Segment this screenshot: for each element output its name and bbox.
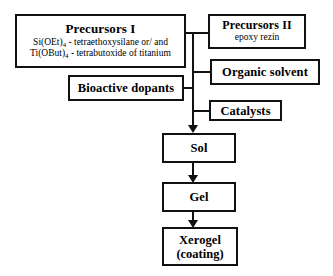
node-xerogel-subtitle: (coating)	[176, 247, 223, 261]
node-precursors-1-line-2: Ti(OBut)4 - tetrabutoxide of titanium	[30, 48, 171, 59]
node-organic-solvent-title: Organic solvent	[222, 65, 308, 79]
node-precursors-1-line-2-rest: - tetrabutoxide of titanium	[69, 48, 171, 58]
node-catalysts-title: Catalysts	[220, 104, 270, 118]
node-xerogel-title: Xerogel	[179, 233, 221, 247]
node-organic-solvent: Organic solvent	[210, 59, 320, 85]
formula-ti-obut: Ti(OBut)	[30, 48, 65, 58]
node-precursors-2-subtitle: epoxy rezin	[235, 32, 280, 43]
node-gel: Gel	[162, 182, 236, 212]
flowchart-canvas: Precursors I Si(OEt)4 - tetraethoxysilan…	[0, 0, 333, 276]
arrow-head-to-sol	[188, 125, 198, 133]
node-bioactive-dopants-title: Bioactive dopants	[78, 81, 175, 95]
node-bioactive-dopants: Bioactive dopants	[68, 75, 184, 101]
node-precursors-2: Precursors II epoxy rezin	[208, 14, 306, 49]
connector-trunk-organic-solvent	[192, 71, 212, 73]
node-catalysts: Catalysts	[209, 100, 282, 121]
node-precursors-1-title: Precursors I	[66, 22, 136, 37]
node-sol-title: Sol	[191, 141, 208, 155]
formula-si-oet: Si(OEt)	[33, 37, 63, 47]
node-precursors-1-line-1-rest: - tetraethoxysilane or/ and	[66, 37, 168, 47]
node-precursors-1-line-1: Si(OEt)4 - tetraethoxysilane or/ and	[33, 37, 168, 48]
node-precursors-1: Precursors I Si(OEt)4 - tetraethoxysilan…	[15, 14, 186, 68]
node-precursors-2-title: Precursors II	[222, 19, 291, 32]
node-xerogel: Xerogel (coating)	[162, 227, 238, 266]
connector-trunk-vertical	[192, 32, 194, 128]
node-gel-title: Gel	[189, 190, 208, 204]
node-sol: Sol	[162, 133, 236, 163]
